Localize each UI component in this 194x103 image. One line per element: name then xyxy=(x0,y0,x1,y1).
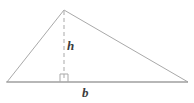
base-label: b xyxy=(82,86,89,99)
geometry-svg xyxy=(0,0,194,103)
height-label: h xyxy=(67,39,74,52)
triangle-area-figure: h b xyxy=(0,0,194,103)
triangle-outline xyxy=(7,10,188,82)
